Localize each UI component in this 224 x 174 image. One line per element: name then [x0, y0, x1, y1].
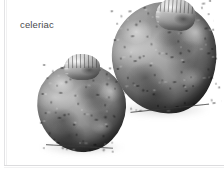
- celeriac-large-cut-stem: [154, 0, 196, 32]
- celeriac-small-cut-stem: [64, 54, 100, 81]
- figure-card: celeriac: [0, 0, 224, 174]
- figure-caption: celeriac: [20, 19, 54, 31]
- celeriac-root-small: [35, 61, 129, 155]
- celeriac-small-root-fibres: [45, 144, 113, 161]
- frame-bottom-border: [4, 165, 224, 166]
- frame-bottom-border-inner: [4, 167, 224, 168]
- frame-left-border: [4, 0, 5, 166]
